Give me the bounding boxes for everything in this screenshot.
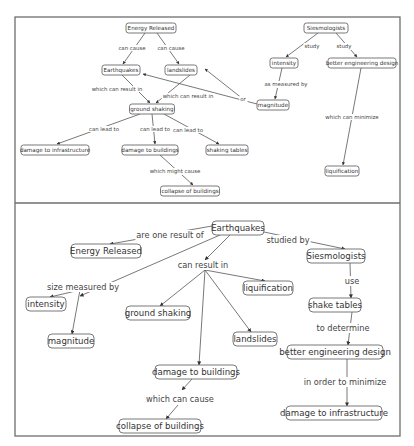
concept-node-earthquakes[interactable]: Earthquakes [211,221,265,235]
concept-node-label: collapse of buildings [161,188,218,195]
concept-node-buildings[interactable]: damage to buildings [152,365,241,379]
concept-node-label: ground shaking [130,106,174,113]
link-label: which can cause [146,394,214,404]
link-label: as measured by [264,81,308,88]
link-label: can result in [178,260,229,270]
concept-node-label: damage to infrastructure [280,408,388,418]
link-label: which might cause [150,168,201,175]
concept-node-ground[interactable]: ground shaking [125,306,192,320]
concept-node-tables[interactable]: shaking tables [206,145,248,155]
concept-node-label: intensity [272,60,297,67]
concept-node-label: Energy Released [128,25,175,32]
concept-node-intensity[interactable]: intensity [270,58,298,68]
concept-node-label: damage to buildings [152,367,241,377]
link-label: are one result of [136,230,204,240]
concept-node-label: collapse of buildings [116,421,204,431]
concept-node-earthquakes[interactable]: Earthquakes [102,65,140,75]
concept-node-label: intensity [27,299,64,309]
concept-node-label: Earthquakes [104,67,139,74]
link-label: to determine [316,323,369,333]
concept-node-label: ground shaking [125,308,192,318]
concept-node-engineering[interactable]: better engineering design [326,58,399,68]
concept-map-canvas: can causecan causewhich can result inwhi… [0,0,414,446]
concept-node-seismologists[interactable]: Siesmologists [306,249,366,263]
concept-node-energy[interactable]: Energy Released [70,244,142,258]
link-label: or [240,96,246,102]
concept-node-label: magnitude [258,102,289,109]
concept-node-label: landslides [233,334,277,344]
concept-node-magnitude[interactable]: magnitude [48,334,95,348]
link-label: size measured by [47,282,119,292]
concept-node-tables[interactable]: shake tables [308,298,363,312]
concept-node-magnitude[interactable]: magnitude [257,100,289,110]
link-label: which can result in [163,93,214,99]
concept-node-landslides[interactable]: landslides [233,332,277,346]
link-label: can cause [157,45,185,51]
concept-node-label: Siesmologists [307,25,346,32]
link-label: use [345,276,360,286]
concept-node-landslides[interactable]: landslides [165,65,197,75]
link-label: can lead to [140,126,170,132]
link-label: can lead to [173,127,203,133]
concept-node-buildings[interactable]: damage to buildings [121,145,178,155]
concept-node-collapse[interactable]: collapse of buildings [161,186,220,196]
concept-node-label: Earthquakes [211,223,265,233]
concept-node-label: magnitude [48,336,95,346]
link-label: which can result in [92,86,143,92]
concept-node-label: shake tables [308,300,363,310]
concept-node-label: better engineering design [326,60,399,67]
concept-node-ground[interactable]: ground shaking [130,104,175,114]
link-label: study [305,43,321,50]
concept-node-label: damage to buildings [121,147,178,154]
concept-node-energy[interactable]: Energy Released [126,23,176,33]
link-label: study [337,43,353,50]
concept-node-liquification[interactable]: liquification [243,281,293,295]
concept-node-label: Energy Released [70,246,142,256]
concept-node-liquification[interactable]: liquification [325,166,359,176]
concept-node-infra[interactable]: damage to infrastructure [280,406,388,420]
concept-node-label: Siesmologists [306,251,366,261]
concept-node-collapse[interactable]: collapse of buildings [116,419,204,433]
link-label: can cause [118,45,146,51]
concept-node-label: shaking tables [207,147,248,154]
link-label: which can minimize [325,114,379,120]
concept-node-label: landslides [167,67,195,73]
concept-node-seismologists[interactable]: Siesmologists [304,23,348,33]
concept-node-label: damage to infrastructure [20,147,91,154]
concept-node-label: liquification [243,283,293,293]
concept-node-infra[interactable]: damage to infrastructure [20,145,91,155]
concept-node-intensity[interactable]: intensity [26,297,66,311]
concept-node-label: liquification [326,168,359,175]
link-label: in order to minimize [304,377,387,387]
concept-node-label: better engineering design [279,347,391,357]
link-label: studied by [266,235,309,245]
link-label: can lead to [89,126,119,132]
concept-node-engineering[interactable]: better engineering design [279,345,391,359]
